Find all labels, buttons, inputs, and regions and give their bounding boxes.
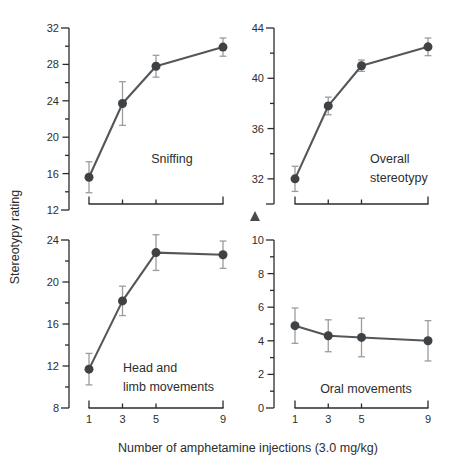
panel-title-head-limb-movements: Head and limb movements [123, 359, 214, 397]
data-point [118, 99, 127, 108]
y-tick-label: 40 [252, 72, 264, 84]
y-tick-label: 28 [47, 58, 59, 70]
x-tick-label: 9 [220, 413, 226, 425]
x-tick-label: 9 [425, 413, 431, 425]
panel-title-overall-stereotypy: Overall stereotypy [370, 150, 428, 188]
y-tick-label: 24 [47, 234, 59, 246]
y-tick-label: 4 [258, 335, 264, 347]
x-tick-label: 5 [358, 413, 364, 425]
y-tick-label: 20 [47, 131, 59, 143]
data-point [219, 250, 228, 259]
y-tick-label: 32 [47, 22, 59, 34]
data-point [291, 321, 300, 330]
y-tick-label: 16 [47, 318, 59, 330]
y-axis-label: Stereotypy rating [8, 190, 22, 285]
x-tick-label: 5 [153, 413, 159, 425]
y-tick-label: 24 [47, 95, 59, 107]
x-tick-label: 1 [292, 413, 298, 425]
data-point [85, 173, 94, 182]
y-tick-label: 44 [252, 22, 264, 34]
y-tick-label: 36 [252, 123, 264, 135]
x-axis-label: Number of amphetamine injections (3.0 mg… [118, 441, 378, 455]
panel-top_left-x-axis [89, 197, 224, 205]
y-tick-label: 32 [252, 173, 264, 185]
data-point [424, 42, 433, 51]
panel-title-oral-movements: Oral movements [320, 380, 412, 399]
y-tick-label: 12 [47, 360, 59, 372]
y-tick-label: 20 [47, 276, 59, 288]
panel-top_right-y-axis: 32364044 [252, 22, 274, 204]
panel-bottom_right-x-axis: 1359 [292, 401, 431, 426]
stereotypy-figure: 1216202428323236404481216202413590246810… [0, 0, 454, 473]
x-tick-label: 3 [325, 413, 331, 425]
data-point [152, 62, 161, 71]
x-tick-label: 1 [86, 413, 92, 425]
triangle-up-icon [250, 211, 260, 221]
data-point [357, 61, 366, 70]
panel-top_left-error-bars [86, 38, 227, 193]
panel-top_left-y-axis: 121620242832 [47, 22, 69, 216]
y-tick-label: 8 [53, 402, 59, 414]
panel-bottom_right-y-axis: 0246810 [252, 234, 274, 414]
panel-title-sniffing: Sniffing [151, 150, 192, 169]
y-tick-label: 2 [258, 368, 264, 380]
data-point [357, 333, 366, 342]
data-point [424, 336, 433, 345]
data-point [324, 331, 333, 340]
x-tick-label: 3 [119, 413, 125, 425]
panel-bottom_left-y-axis: 812162024 [47, 234, 69, 414]
data-point [291, 174, 300, 183]
panel-top_left: 121620242832 [47, 22, 228, 216]
panel-top_right-x-axis [295, 197, 429, 205]
y-tick-label: 0 [258, 402, 264, 414]
data-point [324, 101, 333, 110]
y-tick-label: 6 [258, 301, 264, 313]
y-tick-label: 16 [47, 168, 59, 180]
y-tick-label: 12 [47, 204, 59, 216]
y-tick-label: 8 [258, 268, 264, 280]
data-point [219, 43, 228, 52]
y-tick-label: 10 [252, 234, 264, 246]
data-point [152, 248, 161, 257]
data-point [85, 365, 94, 374]
chart-canvas: 1216202428323236404481216202413590246810… [0, 0, 454, 473]
data-point [118, 296, 127, 305]
panel-bottom_left-x-axis: 1359 [86, 401, 226, 426]
